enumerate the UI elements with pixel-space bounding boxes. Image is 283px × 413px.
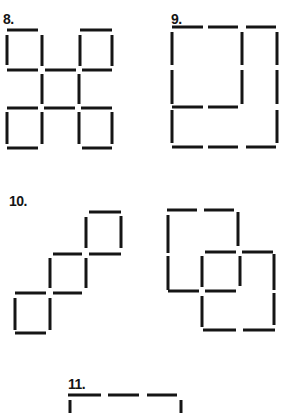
matchstick-diagrams [0, 0, 283, 413]
puzzle-10-figure-left [15, 212, 121, 333]
puzzle-10-figure-right [167, 210, 275, 330]
puzzle-9-figure [172, 27, 277, 147]
puzzle-8-figure [7, 30, 112, 148]
puzzle-11-figure [68, 395, 181, 413]
